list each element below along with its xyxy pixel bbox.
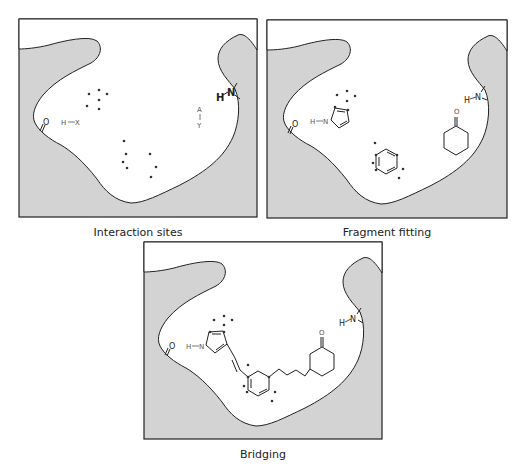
svg-text:H: H bbox=[310, 118, 315, 126]
svg-text:O: O bbox=[454, 108, 460, 116]
svg-text:N: N bbox=[199, 343, 204, 351]
svg-text:Y: Y bbox=[196, 122, 202, 130]
svg-text:H: H bbox=[61, 119, 66, 127]
binding-pocket-diagram: O H N H N bbox=[267, 20, 507, 218]
caption-bridging: Bridging bbox=[144, 448, 382, 461]
caption-interaction-sites: Interaction sites bbox=[19, 226, 257, 239]
svg-text:O: O bbox=[169, 342, 175, 351]
svg-text:O: O bbox=[292, 120, 298, 129]
svg-text:O: O bbox=[43, 118, 49, 127]
svg-text:O: O bbox=[319, 329, 325, 337]
svg-text:N: N bbox=[475, 93, 481, 102]
svg-text:N: N bbox=[350, 315, 356, 324]
binding-pocket-diagram: O H N H X A Y bbox=[19, 19, 257, 217]
panel-bridging: O H N H N bbox=[144, 242, 382, 439]
svg-text:N: N bbox=[227, 87, 235, 98]
panel-fragment-fitting: O H N H N bbox=[267, 20, 507, 218]
svg-text:H: H bbox=[464, 96, 470, 105]
panel-interaction-sites: O H N H X A Y bbox=[19, 19, 257, 217]
svg-text:H: H bbox=[216, 92, 224, 103]
caption-fragment-fitting: Fragment fitting bbox=[267, 226, 507, 239]
svg-text:X: X bbox=[75, 119, 80, 127]
svg-text:H: H bbox=[339, 319, 345, 328]
svg-text:H: H bbox=[186, 343, 191, 351]
svg-text:A: A bbox=[197, 106, 202, 114]
svg-text:N: N bbox=[323, 118, 328, 126]
binding-pocket-diagram: O H N H N bbox=[144, 242, 382, 439]
